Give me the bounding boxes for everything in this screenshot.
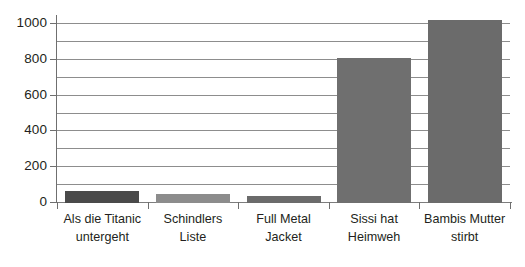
x-axis-tick-mark bbox=[238, 202, 239, 209]
x-axis-tick-mark bbox=[148, 202, 149, 209]
x-axis-category-label-line: Heimweh bbox=[329, 229, 420, 247]
x-axis-category-label-line: Sissi hat bbox=[329, 211, 420, 229]
y-axis-tick-labels: 02004006008001000 bbox=[0, 0, 47, 267]
y-axis-tick-label: 400 bbox=[0, 123, 47, 137]
bar-chart: 02004006008001000 Als die Titanicunterge… bbox=[0, 0, 525, 267]
y-axis-tick-label: 1000 bbox=[0, 16, 47, 30]
y-axis-tick-label: 600 bbox=[0, 88, 47, 102]
x-axis-category-label-line: Liste bbox=[148, 229, 239, 247]
y-axis-tick-mark bbox=[50, 166, 57, 167]
y-axis-tick-label: 0 bbox=[0, 195, 47, 209]
x-axis-category-label: Full MetalJacket bbox=[238, 211, 329, 246]
x-axis-category-label-line: Als die Titanic bbox=[57, 211, 148, 229]
bar bbox=[337, 58, 411, 203]
bar bbox=[428, 20, 502, 203]
x-axis-category-label: Sissi hatHeimweh bbox=[329, 211, 420, 246]
x-axis-category-label-line: Jacket bbox=[238, 229, 329, 247]
x-axis-tick-mark bbox=[510, 202, 511, 209]
x-axis-tick-marks bbox=[57, 202, 510, 210]
y-axis-tick-mark bbox=[50, 95, 57, 96]
y-axis-tick-label: 800 bbox=[0, 52, 47, 66]
bars-container bbox=[57, 15, 510, 203]
x-axis-category-label-line: Schindlers bbox=[148, 211, 239, 229]
x-axis-category-labels: Als die TitanicuntergehtSchindlersListeF… bbox=[57, 211, 510, 267]
x-axis-tick-mark bbox=[419, 202, 420, 209]
x-axis-category-label: SchindlersListe bbox=[148, 211, 239, 246]
x-axis-tick-mark bbox=[329, 202, 330, 209]
x-axis-category-label: Bambis Mutterstirbt bbox=[419, 211, 510, 246]
x-axis-category-label-line: Full Metal bbox=[238, 211, 329, 229]
x-axis-category-label-line: Bambis Mutter bbox=[419, 211, 510, 229]
y-axis-tick-label: 200 bbox=[0, 159, 47, 173]
y-axis-tick-mark bbox=[50, 23, 57, 24]
x-axis-category-label-line: untergeht bbox=[57, 229, 148, 247]
x-axis-category-label: Als die Titanicuntergeht bbox=[57, 211, 148, 246]
y-axis-tick-mark bbox=[50, 202, 57, 203]
y-axis-tick-mark bbox=[50, 59, 57, 60]
x-axis-category-label-line: stirbt bbox=[419, 229, 510, 247]
x-axis-tick-mark bbox=[57, 202, 58, 209]
y-axis-tick-mark bbox=[50, 130, 57, 131]
